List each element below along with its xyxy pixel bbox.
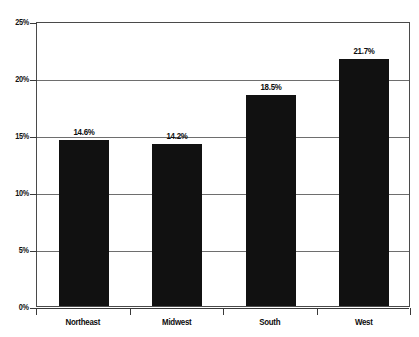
x-axis-separator xyxy=(317,308,318,315)
y-axis-tick-mark xyxy=(30,23,37,24)
x-axis-category-label: West xyxy=(322,317,404,327)
y-axis-tick-mark xyxy=(30,194,37,195)
bar-value-label: 14.6% xyxy=(53,127,115,137)
y-axis-tick-label: 0% xyxy=(19,302,29,312)
y-axis-tick-mark xyxy=(30,251,37,252)
x-axis-separator xyxy=(130,308,131,315)
x-axis-separator xyxy=(410,308,411,315)
y-axis-tick-mark xyxy=(30,80,37,81)
x-axis-category-label: Midwest xyxy=(135,317,217,327)
plot-area: 14.6%14.2%18.5%21.7% xyxy=(36,22,410,307)
y-axis-tick-label: 5% xyxy=(19,245,29,255)
bar xyxy=(339,59,389,306)
bar-value-label: 21.7% xyxy=(333,46,395,56)
bar-value-label: 18.5% xyxy=(240,82,302,92)
y-axis-tick-label: 10% xyxy=(15,188,29,198)
x-axis-category-label: South xyxy=(229,317,311,327)
x-axis-category-label: Northeast xyxy=(42,317,124,327)
x-axis-separator xyxy=(223,308,224,315)
y-axis-labels: 0%5%10%15%20%25% xyxy=(0,0,29,337)
y-axis-tick-label: 20% xyxy=(15,74,29,84)
bar-value-label: 14.2% xyxy=(146,131,208,141)
x-axis-separator xyxy=(36,308,37,315)
y-axis-tick-label: 15% xyxy=(15,131,29,141)
bar xyxy=(59,140,109,306)
bar xyxy=(246,95,296,306)
y-axis-tick-label: 25% xyxy=(15,17,29,27)
y-axis-tick-mark xyxy=(30,137,37,138)
bar-chart: 0%5%10%15%20%25% 14.6%14.2%18.5%21.7% No… xyxy=(0,0,419,337)
bar xyxy=(152,144,202,306)
